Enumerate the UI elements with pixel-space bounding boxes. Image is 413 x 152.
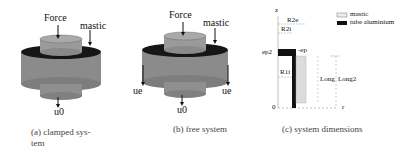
panel-clamped-system: Force mastic u0 (a) clamped sys- tem [0,0,135,152]
legend-aluminium-label: tube aluminium [350,18,394,26]
r1i-label: R1i [280,68,290,76]
r-axis-label: r [342,103,344,111]
legend-mastic-swatch [337,13,347,17]
r2i-label: R2i [281,25,291,33]
ep-label: -ep [298,46,307,54]
z-axis-label: z [275,6,278,14]
ue-left-label: ue [133,85,142,96]
mastic-label: mastic [80,20,106,31]
panel-free-system: Force mastic ue ue u0 (b) free system [130,0,270,152]
caption-a-line2: tem [31,138,45,149]
u0-label: u0 [177,104,187,115]
legend-aluminium-swatch [337,21,347,25]
r2e-label: R2e [287,16,298,24]
legend-mastic-label: mastic [350,10,368,18]
long2-label: Long2 [338,75,356,83]
panel-system-dimensions: z R2e R2i ep2 -ep R1i Long Long2 0 r mas… [270,0,413,152]
ue-right-label: ue [222,85,231,96]
caption-b: (b) free system [173,124,227,135]
origin-label: 0 [272,103,276,111]
u0-label: u0 [54,106,64,117]
force-label: Force [169,9,192,20]
ep2-label: ep2 [262,48,272,56]
caption-c: (c) system dimensions [282,124,363,135]
caption-a-line1: (a) clamped sys- [31,127,90,138]
long-label: Long [320,75,335,83]
mastic-label: mastic [203,17,229,28]
force-label: Force [44,12,67,23]
